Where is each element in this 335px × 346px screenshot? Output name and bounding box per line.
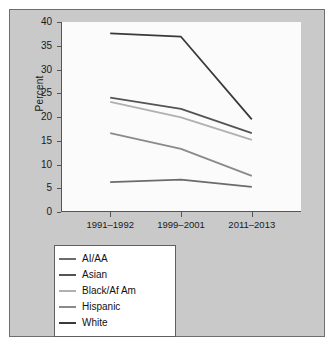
- line-series: [110, 98, 252, 134]
- legend-item[interactable]: White: [59, 315, 169, 331]
- legend-item[interactable]: AI/AA: [59, 251, 169, 267]
- legend-item-label: Black/Af Am: [82, 286, 136, 296]
- legend-item-label: White: [82, 318, 108, 328]
- line-series: [110, 180, 252, 187]
- x-axis-tick-label: 2011–2013: [212, 219, 292, 230]
- y-axis-tick-label: 25: [8, 88, 52, 98]
- y-axis-tick-label: 35: [8, 41, 52, 51]
- chart-figure: Percent 0510152025303540 1991–19921999–2…: [9, 9, 325, 337]
- x-axis-tick-label: 1999–2001: [141, 219, 221, 230]
- legend-item[interactable]: Black/Af Am: [59, 283, 169, 299]
- line-series: [110, 102, 252, 140]
- y-axis-tick-label: 20: [8, 112, 52, 122]
- y-axis-tick-mark: [57, 212, 61, 213]
- legend-swatch-icon: [59, 258, 76, 260]
- legend-swatch-icon: [59, 290, 76, 292]
- legend-swatch-icon: [59, 274, 76, 276]
- y-axis-tick-label: 0: [8, 207, 52, 217]
- x-axis-tick-mark: [252, 212, 253, 217]
- legend-swatch-icon: [59, 306, 76, 308]
- legend-item-label: Hispanic: [82, 302, 120, 312]
- y-axis-tick-label: 15: [8, 136, 52, 146]
- legend-item[interactable]: Hispanic: [59, 299, 169, 315]
- y-axis-tick-label: 10: [8, 160, 52, 170]
- legend-item[interactable]: Asian: [59, 267, 169, 283]
- x-axis-tick-mark: [110, 212, 111, 217]
- plot-area: [61, 22, 301, 212]
- y-axis-tick-label: 5: [8, 183, 52, 193]
- y-axis-tick-label: 30: [8, 65, 52, 75]
- x-axis-tick-mark: [181, 212, 182, 217]
- chart-legend: AI/AAAsianBlack/Af AmHispanicWhite: [54, 245, 176, 337]
- y-axis-tick-label: 40: [8, 17, 52, 27]
- legend-swatch-icon: [59, 322, 76, 324]
- legend-item-label: Asian: [82, 270, 107, 280]
- line-series-group: [61, 22, 301, 212]
- x-axis-tick-label: 1991–1992: [70, 219, 150, 230]
- line-series: [110, 133, 252, 176]
- legend-item-label: AI/AA: [82, 254, 108, 264]
